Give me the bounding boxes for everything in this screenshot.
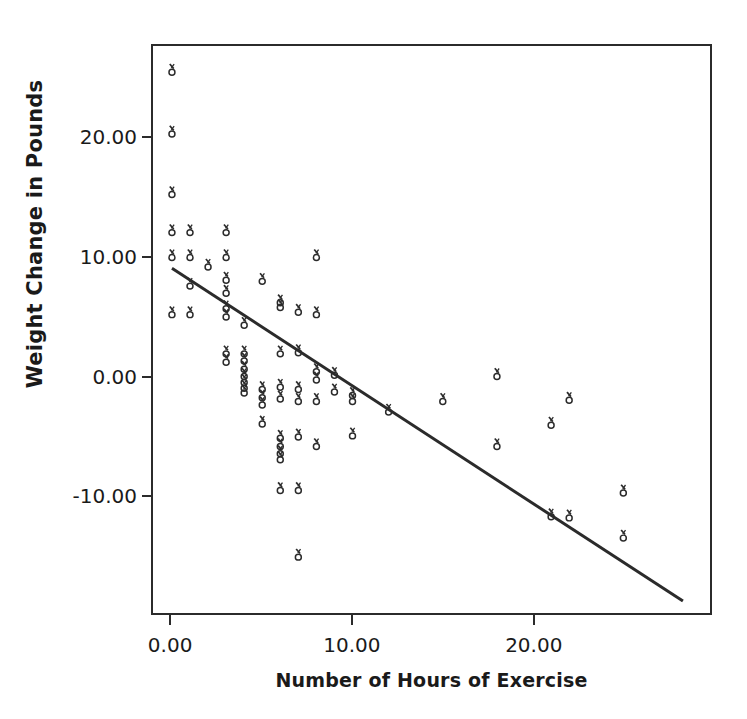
- data-point: [241, 317, 247, 328]
- data-point: [295, 549, 301, 560]
- plot-area: [151, 44, 712, 615]
- data-point: [620, 530, 626, 541]
- y-tick-label: -10.00: [27, 484, 137, 508]
- plot-canvas: [153, 46, 710, 613]
- scatterplot-figure: Weight Change in Pounds 20.0010.000.00-1…: [0, 0, 747, 719]
- data-point: [259, 397, 265, 408]
- y-tick-label: 20.00: [27, 125, 137, 149]
- data-point: [223, 224, 229, 235]
- data-point: [494, 438, 500, 449]
- data-point: [223, 272, 229, 283]
- data-point: [277, 346, 283, 357]
- data-point: [295, 304, 301, 315]
- data-point: [386, 404, 392, 415]
- data-point: [223, 249, 229, 260]
- data-point: [313, 307, 319, 318]
- data-point: [169, 64, 175, 75]
- y-tick-mark: [142, 495, 151, 497]
- data-point: [169, 307, 175, 318]
- data-point: [350, 428, 356, 439]
- data-point: [440, 393, 446, 404]
- data-point: [169, 126, 175, 137]
- data-point: [187, 224, 193, 235]
- regression-line: [172, 268, 683, 601]
- data-point: [187, 249, 193, 260]
- y-tick-label: 0.00: [27, 365, 137, 389]
- data-point: [313, 393, 319, 404]
- data-point: [566, 392, 572, 403]
- x-tick-label: 0.00: [110, 633, 230, 657]
- data-point: [223, 285, 229, 296]
- data-point: [277, 391, 283, 402]
- data-point: [259, 273, 265, 284]
- x-tick-mark: [351, 615, 353, 625]
- y-tick-mark: [142, 256, 151, 258]
- data-point: [295, 345, 301, 356]
- data-point: [169, 186, 175, 197]
- x-tick-mark: [533, 615, 535, 625]
- y-tick-mark: [142, 376, 151, 378]
- data-point: [295, 393, 301, 404]
- x-tick-label: 10.00: [292, 633, 412, 657]
- x-axis-title: Number of Hours of Exercise: [151, 669, 712, 691]
- data-point: [350, 393, 356, 404]
- data-point: [548, 509, 554, 520]
- data-point: [187, 307, 193, 318]
- regression-line-path: [172, 268, 683, 601]
- data-point: [313, 249, 319, 260]
- data-point: [295, 482, 301, 493]
- data-point: [295, 429, 301, 440]
- y-tick-mark: [142, 136, 151, 138]
- x-tick-mark: [169, 615, 171, 625]
- data-point: [566, 510, 572, 521]
- data-point: [169, 249, 175, 260]
- data-point: [313, 438, 319, 449]
- data-point: [259, 416, 265, 427]
- data-point: [277, 452, 283, 463]
- data-point: [548, 417, 554, 428]
- data-point: [331, 384, 337, 395]
- data-point: [277, 379, 283, 390]
- x-tick-label: 20.00: [474, 633, 594, 657]
- data-point: [295, 381, 301, 392]
- data-point: [205, 259, 211, 270]
- data-point: [169, 224, 175, 235]
- data-point: [331, 367, 337, 378]
- y-tick-label: 10.00: [27, 245, 137, 269]
- data-point: [277, 482, 283, 493]
- data-point: [620, 485, 626, 496]
- data-point: [494, 368, 500, 379]
